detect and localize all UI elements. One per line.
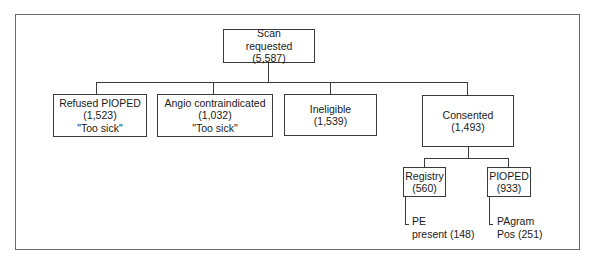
connector-to-pioped bbox=[508, 158, 509, 167]
node-pioped: PIOPED (933) bbox=[487, 167, 531, 197]
leaf-label: PE bbox=[412, 215, 474, 228]
leaf-label: present (148) bbox=[412, 228, 474, 241]
node-label: Refused PIOPED bbox=[59, 97, 141, 110]
connector-pioped-leaf bbox=[489, 197, 490, 224]
connector-registry-leaf bbox=[405, 197, 406, 224]
connector-to-registry bbox=[424, 158, 425, 167]
node-count: (1,032) bbox=[198, 109, 231, 122]
leaf-label: Pos (251) bbox=[497, 228, 543, 241]
node-angio-contraindicated: Angio contraindicated (1,032) "Too sick" bbox=[157, 94, 273, 137]
node-consented: Consented (1,493) bbox=[422, 95, 514, 147]
node-count: (560) bbox=[412, 182, 437, 195]
node-label: Scan bbox=[257, 27, 281, 40]
leaf-pe-present: PE present (148) bbox=[412, 215, 474, 240]
connector-to-ineligible bbox=[330, 82, 331, 94]
node-scan-requested: Scan requested (5,587) bbox=[223, 29, 315, 63]
node-note: "Too sick" bbox=[192, 122, 237, 135]
node-label: Angio contraindicated bbox=[165, 97, 266, 110]
connector-to-refused bbox=[96, 82, 97, 94]
leaf-pagram-pos: PAgram Pos (251) bbox=[497, 215, 543, 240]
connector-level2-bar bbox=[424, 158, 509, 159]
node-count: (5,587) bbox=[252, 52, 285, 65]
connector-level1-bar bbox=[96, 82, 467, 83]
node-count: (1,539) bbox=[314, 115, 347, 128]
node-count: (1,523) bbox=[83, 109, 116, 122]
node-refused-pioped: Refused PIOPED (1,523) "Too sick" bbox=[53, 94, 147, 137]
connector-pioped-leaf-tick bbox=[489, 224, 493, 225]
node-label: Consented bbox=[443, 109, 494, 122]
connector-to-consented bbox=[467, 82, 468, 95]
leaf-label: PAgram bbox=[497, 215, 543, 228]
node-note: "Too sick" bbox=[77, 122, 122, 135]
node-label: Ineligible bbox=[310, 103, 351, 116]
node-label: PIOPED bbox=[489, 170, 529, 183]
connector-to-angio bbox=[213, 82, 214, 94]
connector-root-down bbox=[268, 63, 269, 82]
node-registry: Registry (560) bbox=[403, 167, 446, 197]
node-count: (933) bbox=[497, 182, 522, 195]
node-ineligible: Ineligible (1,539) bbox=[284, 94, 377, 136]
node-label: requested bbox=[246, 40, 293, 53]
node-count: (1,493) bbox=[451, 121, 484, 134]
connector-registry-leaf-tick bbox=[405, 224, 409, 225]
connector-consented-down bbox=[468, 147, 469, 158]
node-label: Registry bbox=[405, 170, 444, 183]
